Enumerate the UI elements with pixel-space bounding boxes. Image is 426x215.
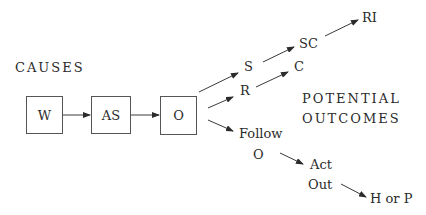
outcome-out: Out (308, 178, 332, 191)
outcome-sc: SC (299, 37, 318, 50)
outcome-h-or-p: H or P (370, 192, 412, 205)
outcome-act: Act (310, 158, 332, 171)
arrow-act-hp (341, 184, 366, 197)
arrows-layer (0, 0, 426, 215)
cause-box-w: W (26, 96, 63, 134)
cause-box-as-label: AS (102, 108, 120, 123)
arrow-o-r (208, 97, 233, 108)
arrow-o-s (199, 73, 238, 92)
outcome-ri: RI (362, 11, 377, 24)
outcome-r: R (240, 84, 250, 97)
cause-box-as: AS (91, 96, 131, 134)
arrow-r-c (256, 72, 288, 87)
outcome-follow-o: O (253, 148, 264, 161)
outcome-follow: Follow (239, 127, 282, 140)
arrow-follow-act (280, 153, 303, 164)
potential-heading: POTENTIAL (302, 92, 401, 105)
causes-heading: CAUSES (15, 61, 85, 74)
cause-box-o-label: O (173, 108, 184, 123)
outcome-s: S (244, 60, 253, 73)
cause-box-w-label: W (38, 108, 51, 123)
cause-box-o: O (160, 96, 197, 135)
arrow-sc-ri (325, 20, 358, 36)
outcome-c: C (294, 60, 304, 73)
arrow-o-follow (208, 120, 233, 131)
outcomes-heading: OUTCOMES (302, 112, 401, 125)
arrow-s-sc (263, 47, 294, 62)
